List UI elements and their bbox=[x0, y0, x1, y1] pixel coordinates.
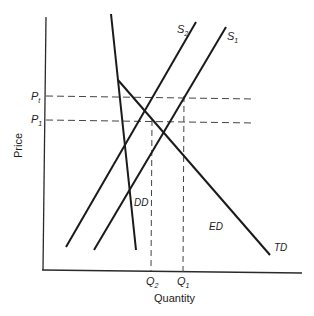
x-axis bbox=[42, 270, 302, 273]
total-demand-curve bbox=[118, 80, 270, 255]
label-ed: ED bbox=[209, 221, 223, 232]
label-s1: S1 bbox=[227, 30, 238, 44]
supply-curve-s2 bbox=[66, 22, 196, 247]
label-q1: Q1 bbox=[177, 275, 190, 289]
quantity-line-q2 bbox=[151, 120, 152, 271]
label-s2: S2 bbox=[177, 23, 188, 37]
supply-demand-diagram: S2 S1 DD TD ED Pt P1 Q2 Q1 Quantity Pric… bbox=[0, 0, 314, 316]
label-q2: Q2 bbox=[146, 275, 159, 289]
x-axis-title: Quantity bbox=[154, 292, 195, 304]
label-pt: Pt bbox=[31, 90, 41, 104]
y-axis bbox=[43, 17, 46, 270]
price-line-p1 bbox=[46, 120, 255, 123]
label-dd: DD bbox=[134, 197, 148, 208]
price-line-pt bbox=[46, 96, 255, 99]
label-td: TD bbox=[274, 242, 287, 253]
label-p1: P1 bbox=[31, 113, 42, 127]
supply-curve-s1 bbox=[94, 27, 226, 250]
y-axis-title: Price bbox=[12, 133, 24, 158]
